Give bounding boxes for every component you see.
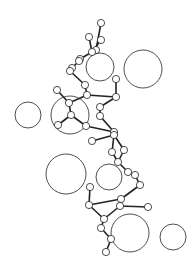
sphere [96, 164, 122, 190]
atom [82, 122, 89, 129]
atom [100, 215, 107, 222]
atom [112, 93, 119, 100]
atom [96, 112, 103, 119]
sphere [111, 214, 149, 252]
atom [108, 148, 115, 155]
bond [87, 95, 116, 97]
atom [86, 183, 93, 190]
sphere [15, 102, 41, 128]
atom [97, 36, 104, 43]
atom [97, 19, 104, 26]
atom [117, 195, 124, 202]
atom [136, 181, 143, 188]
atom [53, 86, 60, 93]
bond [89, 199, 121, 205]
atom [85, 201, 92, 208]
atom [75, 57, 82, 64]
atom [110, 131, 117, 138]
bond [120, 206, 148, 207]
atom [83, 91, 90, 98]
atom [131, 171, 138, 178]
atom [81, 81, 88, 88]
atom [88, 137, 95, 144]
atom [144, 203, 151, 210]
molecule-diagram [0, 0, 196, 264]
atom [102, 248, 109, 255]
large-spheres [15, 50, 186, 252]
atom [66, 67, 73, 74]
atom [85, 33, 92, 40]
atom [107, 235, 114, 242]
atom [96, 103, 103, 110]
atom [120, 146, 127, 153]
atom [65, 99, 72, 106]
atom [97, 224, 104, 231]
atom [114, 158, 121, 165]
sphere [160, 224, 186, 250]
sphere [86, 53, 114, 81]
atom [88, 48, 95, 55]
atom [54, 121, 61, 128]
atom [67, 111, 74, 118]
atom [112, 75, 119, 82]
sphere [124, 50, 162, 88]
atom [116, 202, 123, 209]
atom [124, 168, 131, 175]
sphere [46, 154, 86, 194]
